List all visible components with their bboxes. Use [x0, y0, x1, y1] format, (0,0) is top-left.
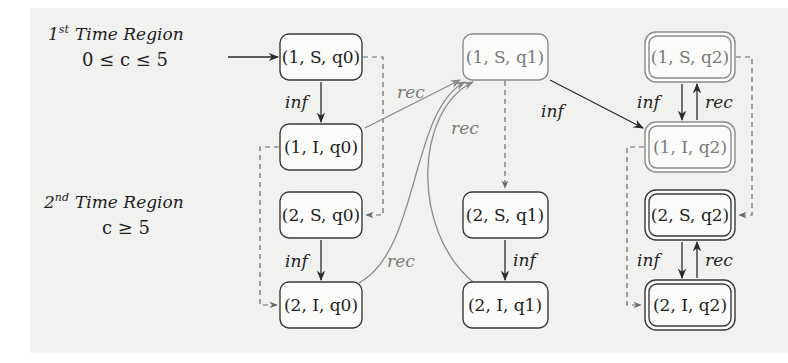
- node-1Iq2: (1, I, q2): [645, 122, 735, 172]
- node-1Iq2-label: (1, I, q2): [653, 137, 727, 157]
- dashed-edge-1Iq2-2Iq2: [627, 147, 644, 305]
- svg-text:2ndTime Region: 2ndTime Region: [43, 191, 184, 212]
- region-1-suffix: st: [59, 23, 70, 36]
- region-2-label: 2ndTime Region c ≥ 5: [43, 191, 184, 238]
- label-inf-1Sq2-1Iq2: inf: [637, 92, 662, 112]
- node-1Sq1-label: (1, S, q1): [466, 47, 544, 67]
- region-2-title: Time Region: [75, 192, 184, 212]
- node-2Iq2-label: (2, I, q2): [653, 295, 727, 315]
- label-inf-1Sq0-1Iq0: inf: [285, 92, 310, 112]
- node-1Sq0-label: (1, S, q0): [282, 47, 360, 67]
- region-2-condition: c ≥ 5: [102, 217, 150, 238]
- region-1-label: 1stTime Region 0 ≤ c ≤ 5: [48, 23, 184, 70]
- node-2Sq1: (2, S, q1): [463, 192, 548, 238]
- svg-text:1stTime Region: 1stTime Region: [48, 23, 184, 44]
- region-1-title: Time Region: [75, 24, 184, 44]
- region-2-suffix: nd: [55, 191, 69, 204]
- node-2Iq2: (2, I, q2): [645, 280, 735, 330]
- edge-inf-1Sq1-1Iq2: [550, 80, 643, 128]
- label-inf-2Sq1-2Iq1: inf: [513, 250, 538, 270]
- label-inf-2Sq2-2Iq2: inf: [637, 250, 662, 270]
- label-inf-1Sq1-1Iq2: inf: [541, 101, 566, 121]
- node-2Sq0: (2, S, q0): [280, 192, 362, 238]
- label-rec-2Iq2-2Sq2: rec: [705, 250, 733, 270]
- node-2Iq0: (2, I, q0): [280, 282, 362, 328]
- dashed-edge-1Iq0-2Iq0: [260, 147, 279, 305]
- edge-rec-2Iq1-1Sq1: [428, 82, 474, 283]
- label-rec-1Iq0-1Sq1: rec: [397, 82, 425, 102]
- node-1Sq1: (1, S, q1): [463, 34, 548, 80]
- label-rec-2Iq0-1Sq1: rec: [387, 251, 415, 271]
- node-2Sq2: (2, S, q2): [645, 190, 735, 240]
- label-rec-2Iq1-1Sq1: rec: [451, 118, 479, 138]
- node-1Iq0-label: (1, I, q0): [284, 137, 358, 157]
- label-rec-1Iq2-1Sq2: rec: [705, 92, 733, 112]
- node-2Sq1-label: (2, S, q1): [466, 205, 544, 225]
- region-2-ordinal: 2: [43, 192, 55, 212]
- label-inf-2Sq0-2Iq0: inf: [285, 251, 310, 271]
- region-1-ordinal: 1: [48, 24, 59, 44]
- node-1Sq2-label: (1, S, q2): [651, 47, 729, 67]
- state-diagram: 1stTime Region 0 ≤ c ≤ 5 2ndTime Region …: [0, 0, 788, 363]
- region-1-condition: 0 ≤ c ≤ 5: [82, 49, 168, 70]
- node-2Sq2-label: (2, S, q2): [651, 205, 729, 225]
- node-2Iq0-label: (2, I, q0): [284, 295, 358, 315]
- node-1Sq0: (1, S, q0): [280, 34, 362, 80]
- node-2Sq0-label: (2, S, q0): [282, 205, 360, 225]
- dashed-edge-1Sq2-2Sq2: [736, 57, 752, 215]
- node-2Iq1: (2, I, q1): [463, 282, 548, 328]
- node-1Sq2: (1, S, q2): [645, 32, 735, 82]
- node-1Iq0: (1, I, q0): [280, 124, 362, 170]
- dashed-edge-1Sq0-2Sq0: [363, 57, 383, 215]
- node-2Iq1-label: (2, I, q1): [468, 295, 542, 315]
